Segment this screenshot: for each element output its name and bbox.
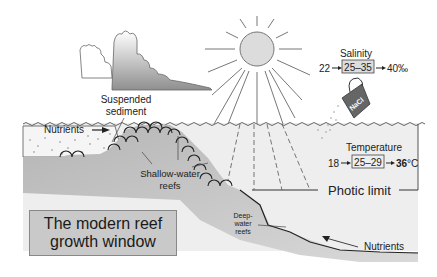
temperature-unit: °C: [407, 158, 418, 169]
nutrients-bottom-label: Nutrients: [364, 241, 404, 252]
photic-limit-label: Photic limit: [328, 183, 391, 198]
salt-jug-icon: NaCl: [342, 78, 370, 118]
shallow-water-reefs-label: Shallow-water: [140, 168, 200, 179]
title-line-2: growth window: [50, 233, 156, 251]
deep-water-reefs-label: Deep-: [233, 212, 253, 220]
temperature-min: 18: [328, 158, 340, 169]
deep-water-reefs-label-2: water: [233, 220, 252, 227]
suspended-sediment-label: Suspended: [101, 94, 152, 105]
title-box: The modern reef growth window: [29, 210, 177, 256]
shallow-water-reefs-label-2: reefs: [159, 180, 180, 191]
cloud-icon: [80, 31, 212, 90]
salinity-max: 40‰: [387, 63, 408, 74]
salinity-label: Salinity: [340, 48, 372, 59]
salinity-range: 25–35: [344, 62, 372, 73]
salinity-min: 22: [319, 63, 331, 74]
temperature-label: Temperature: [346, 142, 403, 153]
temperature-max: 36: [396, 158, 408, 169]
suspended-sediment-label-2: sediment: [106, 106, 147, 117]
deep-water-reefs-label-3: reefs: [235, 228, 251, 235]
sun-icon: [205, 16, 310, 124]
title-line-1: The modern reef: [44, 215, 162, 233]
temperature-range: 25–29: [354, 157, 382, 168]
nutrients-top-label: Nutrients: [44, 124, 84, 135]
